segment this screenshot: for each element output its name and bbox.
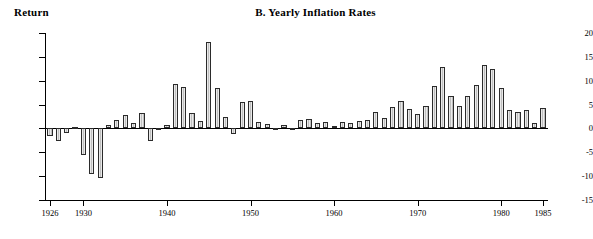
bar — [131, 123, 136, 129]
bar — [332, 126, 337, 129]
bar — [81, 128, 86, 154]
bar — [357, 121, 362, 128]
plot-area: 20151050-5-10-15 19261930194019501960197… — [0, 0, 593, 239]
bar — [223, 117, 228, 128]
bar — [64, 128, 69, 132]
bar — [448, 96, 453, 128]
bar — [123, 115, 128, 129]
bar — [98, 128, 103, 178]
bar — [240, 102, 245, 128]
bar — [457, 106, 462, 129]
bar — [181, 87, 186, 129]
bar — [340, 122, 345, 129]
bar — [507, 110, 512, 128]
bar — [72, 127, 77, 129]
bar — [415, 114, 420, 128]
bar — [474, 85, 479, 128]
bar — [323, 122, 328, 128]
bar — [89, 128, 94, 174]
bar — [515, 112, 520, 129]
bar — [390, 107, 395, 128]
bar — [298, 120, 303, 128]
bar — [256, 122, 261, 128]
bar — [532, 123, 537, 128]
bar — [47, 128, 52, 135]
bar — [56, 128, 61, 140]
bar — [382, 118, 387, 128]
bar — [373, 112, 378, 128]
bar — [348, 123, 353, 128]
bar — [215, 88, 220, 128]
bar — [156, 128, 161, 130]
bar-series — [0, 0, 593, 239]
bar — [290, 128, 295, 130]
bar — [490, 69, 495, 129]
bar — [265, 124, 270, 128]
bar — [423, 106, 428, 129]
bar — [164, 125, 169, 129]
bar — [173, 84, 178, 129]
bar — [248, 101, 253, 128]
bar — [281, 125, 286, 128]
bar — [273, 128, 278, 130]
bar — [198, 121, 203, 129]
bar — [189, 113, 194, 128]
bar — [440, 67, 445, 128]
bar — [398, 101, 403, 128]
bar — [499, 88, 504, 128]
bar — [432, 86, 437, 128]
bar — [139, 113, 144, 128]
bar — [315, 123, 320, 128]
inflation-chart-figure: Return B. Yearly Inflation Rates 2015105… — [0, 0, 593, 239]
bar — [524, 110, 529, 129]
bar — [482, 65, 487, 128]
bar — [206, 42, 211, 129]
bar — [540, 108, 545, 128]
bar — [106, 125, 111, 129]
bar — [407, 109, 412, 128]
bar — [465, 96, 470, 128]
bar — [365, 120, 370, 129]
bar — [306, 119, 311, 128]
bar — [231, 128, 236, 134]
bar — [114, 120, 119, 129]
bar — [148, 128, 153, 140]
